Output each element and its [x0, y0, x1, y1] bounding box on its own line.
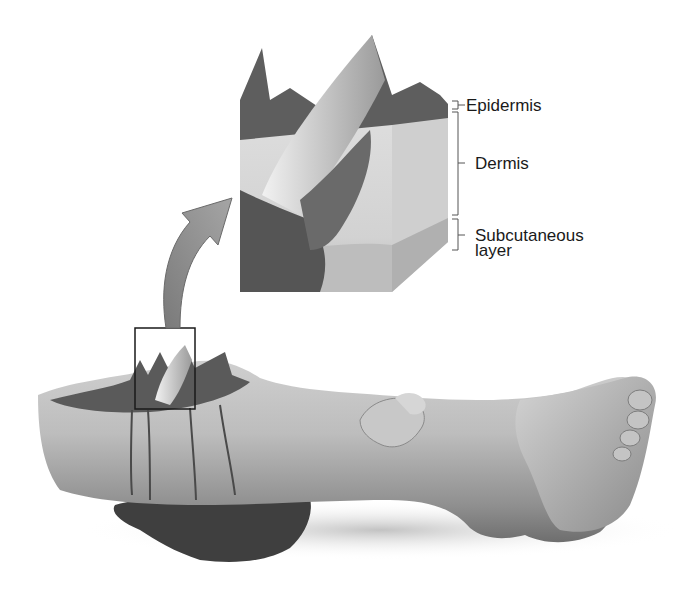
epidermis-bracket: [452, 101, 465, 109]
subcutaneous-bracket: [452, 219, 465, 250]
magnify-arrow: [164, 198, 232, 328]
skin-cross-section-inset: [240, 35, 448, 292]
label-subcutaneous-layer: layer: [475, 243, 512, 258]
layer-brackets: [452, 101, 465, 250]
dermis-bracket: [452, 112, 465, 215]
label-dermis: Dermis: [475, 156, 529, 171]
label-epidermis: Epidermis: [466, 98, 542, 113]
open-fracture-illustration: [0, 0, 699, 604]
